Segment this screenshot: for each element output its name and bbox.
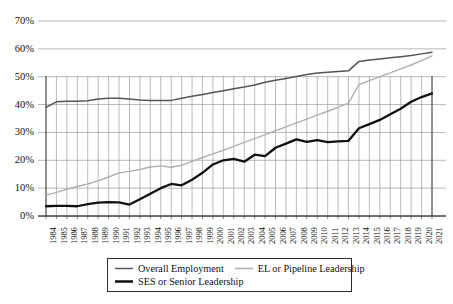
line-swatch-ses-icon bbox=[115, 279, 133, 284]
x-axis-tick-2016: 2016 bbox=[383, 227, 392, 244]
x-axis-tick-1992: 1992 bbox=[133, 227, 142, 244]
x-axis-tick-1997: 1997 bbox=[185, 227, 194, 244]
chart-plot-area: 0%10%20%30%40%50%60%70% bbox=[0, 0, 453, 240]
x-axis-tick-2012: 2012 bbox=[341, 227, 350, 244]
x-axis-tick-2015: 2015 bbox=[373, 227, 382, 244]
x-axis-tick-1998: 1998 bbox=[195, 227, 204, 244]
x-axis-tick-2005: 2005 bbox=[268, 227, 277, 244]
x-axis-tick-1984: 1984 bbox=[49, 227, 58, 244]
y-axis-tick-40: 40% bbox=[0, 100, 34, 110]
x-axis-tick-1995: 1995 bbox=[164, 227, 173, 244]
legend-item-el-pipeline-leadership: EL or Pipeline Leadership bbox=[235, 263, 365, 274]
legend-label-overall-employment: Overall Employment bbox=[138, 263, 224, 274]
y-axis-tick-60: 60% bbox=[0, 44, 34, 54]
x-axis-tick-1991: 1991 bbox=[122, 227, 131, 244]
legend-row: Overall Employment EL or Pipeline Leader… bbox=[115, 262, 344, 275]
x-axis-tick-1985: 1985 bbox=[60, 227, 69, 244]
chart-legend: Overall Employment EL or Pipeline Leader… bbox=[107, 258, 352, 292]
legend-label-ses-senior-leadership: SES or Senior Leadership bbox=[138, 276, 244, 287]
x-axis-tick-1996: 1996 bbox=[174, 227, 183, 244]
y-axis-tick-30: 30% bbox=[0, 127, 34, 137]
x-axis-tick-2002: 2002 bbox=[237, 227, 246, 244]
x-axis-tick-2019: 2019 bbox=[414, 227, 423, 244]
series-line-2 bbox=[46, 93, 432, 206]
x-axis-tick-2013: 2013 bbox=[352, 227, 361, 244]
data-series-group bbox=[46, 52, 432, 206]
series-line-0 bbox=[46, 52, 432, 107]
y-axis-tick-70: 70% bbox=[0, 16, 34, 26]
y-axis-tick-50: 50% bbox=[0, 72, 34, 82]
x-axis-tick-2004: 2004 bbox=[258, 227, 267, 244]
x-axis-tick-1986: 1986 bbox=[70, 227, 79, 244]
x-axis-tick-2006: 2006 bbox=[279, 227, 288, 244]
x-axis-tick-2001: 2001 bbox=[227, 227, 236, 244]
x-axis-tick-2009: 2009 bbox=[310, 227, 319, 244]
x-axis-tick-1988: 1988 bbox=[91, 227, 100, 244]
x-axis-tick-1994: 1994 bbox=[154, 227, 163, 244]
y-axis-tick-20: 20% bbox=[0, 155, 34, 165]
x-axis-tick-2011: 2011 bbox=[331, 228, 340, 244]
line-swatch-overall-icon bbox=[115, 266, 133, 271]
x-axis-tick-1987: 1987 bbox=[80, 227, 89, 244]
line-swatch-el-icon bbox=[235, 266, 253, 271]
x-axis-tick-2018: 2018 bbox=[404, 227, 413, 244]
x-axis-tick-2021: 2021 bbox=[435, 227, 444, 244]
axis-lines bbox=[38, 76, 446, 219]
vertical-gridlines bbox=[46, 76, 432, 216]
x-axis-tick-2008: 2008 bbox=[300, 227, 309, 244]
legend-item-ses-senior-leadership: SES or Senior Leadership bbox=[115, 276, 244, 287]
legend-label-el-pipeline-leadership: EL or Pipeline Leadership bbox=[258, 263, 365, 274]
x-axis-tick-1993: 1993 bbox=[143, 227, 152, 244]
x-axis-tick-1999: 1999 bbox=[206, 227, 215, 244]
legend-row: SES or Senior Leadership bbox=[115, 275, 344, 288]
x-axis-tick-2003: 2003 bbox=[247, 227, 256, 244]
chart-canvas bbox=[0, 0, 453, 240]
x-axis-tick-2020: 2020 bbox=[425, 227, 434, 244]
x-axis-tick-2007: 2007 bbox=[289, 227, 298, 244]
chart-figure: 0%10%20%30%40%50%60%70% 1984198519861987… bbox=[0, 0, 453, 304]
x-axis-tick-1990: 1990 bbox=[112, 227, 121, 244]
x-axis-tick-2014: 2014 bbox=[362, 227, 371, 244]
x-axis-tick-2010: 2010 bbox=[320, 227, 329, 244]
y-axis-tick-10: 10% bbox=[0, 183, 34, 193]
x-axis-tick-2017: 2017 bbox=[393, 227, 402, 244]
legend-item-overall-employment: Overall Employment bbox=[115, 263, 224, 274]
x-axis-tick-1989: 1989 bbox=[101, 227, 110, 244]
x-axis-tick-2000: 2000 bbox=[216, 227, 225, 244]
